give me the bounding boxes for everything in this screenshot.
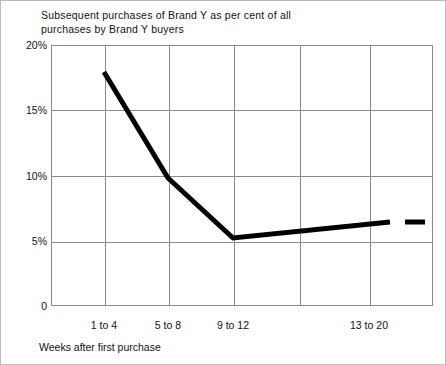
y-tick-label-5: 5% <box>5 235 51 247</box>
gridline-vertical-1 <box>105 46 106 305</box>
gridline-vertical-4 <box>300 46 301 305</box>
gridline-horizontal-10 <box>52 176 432 177</box>
gridline-vertical-3 <box>234 46 235 305</box>
y-axis: 20% 15% 10% 5% 0 <box>1 1 51 365</box>
chart-title: Subsequent purchases of Brand Y as per c… <box>41 9 371 36</box>
x-tick-label-1-to-4: 1 to 4 <box>91 319 117 331</box>
gridline-vertical-2 <box>169 46 170 305</box>
chart-figure: Subsequent purchases of Brand Y as per c… <box>0 0 446 365</box>
gridline-horizontal-15 <box>52 110 432 111</box>
y-tick-label-20: 20% <box>5 39 51 51</box>
chart-title-line-2: purchases by Brand Y buyers <box>41 23 371 37</box>
plot-area <box>51 45 433 306</box>
chart-title-line-1: Subsequent purchases of Brand Y as per c… <box>41 9 371 23</box>
y-tick-label-15: 15% <box>5 104 51 116</box>
gridline-horizontal-5 <box>52 242 432 243</box>
x-tick-label-9-to-12: 9 to 12 <box>217 319 249 331</box>
x-tick-label-13-to-20: 13 to 20 <box>350 319 388 331</box>
gridline-vertical-5 <box>370 46 371 305</box>
y-tick-label-0: 0 <box>5 300 51 312</box>
y-tick-label-10: 10% <box>5 170 51 182</box>
x-tick-label-5-to-8: 5 to 8 <box>155 319 181 331</box>
x-axis-title: Weeks after first purchase <box>39 341 161 353</box>
